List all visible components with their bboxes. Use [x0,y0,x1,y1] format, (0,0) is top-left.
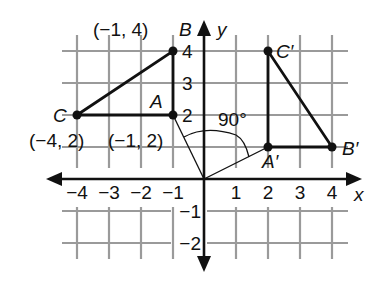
svg-text:x: x [353,184,365,205]
svg-text:90°: 90° [218,109,247,130]
svg-text:−2: −2 [179,233,201,254]
svg-text:2: 2 [263,182,274,203]
point-b-prime [328,143,337,152]
svg-text:1: 1 [231,182,242,203]
svg-text:−1: −1 [179,201,201,222]
x-tick-labels: −4 −3 −2 −1 1 2 3 4 x [66,182,365,205]
svg-text:A: A [149,91,163,112]
svg-text:(−4, 2): (−4, 2) [29,130,84,151]
svg-text:−1: −1 [162,182,184,203]
svg-text:C: C [53,105,67,126]
svg-text:B′: B′ [342,138,360,159]
svg-text:y: y [215,19,228,40]
svg-text:3: 3 [182,73,193,94]
x-axis-left-arrow-icon [46,172,62,186]
svg-text:3: 3 [295,182,306,203]
point-c [73,111,82,120]
coordinate-plane: −4 −3 −2 −1 1 2 3 4 x 4 3 2 −1 −2 y B (−… [0,0,388,290]
svg-text:A′: A′ [261,151,280,172]
svg-text:C′: C′ [276,41,295,62]
y-axis-up-arrow-icon [197,20,211,36]
svg-text:4: 4 [182,41,193,62]
svg-text:(−1, 2): (−1, 2) [108,130,163,151]
svg-text:B: B [179,19,192,40]
y-axis-down-arrow-icon [197,256,211,272]
point-b [169,47,178,56]
point-labels: B (−1, 4) A C (−4, 2) (−1, 2) C′ A′ B′ 9… [29,19,360,172]
point-c-prime [264,47,273,56]
svg-text:(−1, 4): (−1, 4) [93,19,148,40]
svg-text:4: 4 [327,182,338,203]
svg-text:−2: −2 [130,182,152,203]
svg-text:−4: −4 [66,182,88,203]
svg-text:−3: −3 [98,182,120,203]
svg-text:2: 2 [182,105,193,126]
point-a [169,111,178,120]
